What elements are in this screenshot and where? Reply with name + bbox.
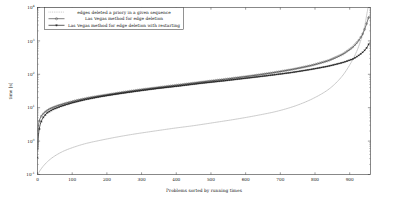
series-marker bbox=[95, 96, 97, 98]
series-marker bbox=[185, 84, 187, 86]
y-axis-title: time [s] bbox=[8, 82, 13, 99]
series-marker bbox=[64, 104, 66, 106]
series-marker bbox=[152, 88, 154, 90]
x-axis-title: Problems sorted by running times bbox=[166, 188, 243, 193]
series-marker bbox=[225, 80, 227, 82]
series-marker bbox=[311, 68, 313, 70]
series-marker bbox=[258, 76, 260, 78]
series-marker bbox=[299, 70, 301, 72]
series-marker bbox=[42, 116, 44, 118]
series-marker bbox=[105, 95, 107, 97]
series-marker bbox=[93, 97, 95, 99]
series-marker bbox=[321, 66, 323, 68]
series-marker bbox=[183, 84, 185, 86]
y-tick-exponent: 0 bbox=[33, 138, 35, 142]
series-marker bbox=[127, 91, 129, 93]
x-tick-label: 700 bbox=[276, 177, 284, 182]
series-marker bbox=[234, 78, 236, 80]
series-marker bbox=[227, 79, 229, 81]
series-marker bbox=[131, 91, 133, 93]
series-marker bbox=[170, 86, 172, 88]
legend-label-3: Las Vegas method for edge deletion with … bbox=[68, 23, 180, 28]
series-marker bbox=[230, 79, 232, 81]
legend-label-1: edges deleted a priory in a given sequen… bbox=[77, 10, 171, 15]
series-marker bbox=[193, 83, 195, 85]
series-marker bbox=[150, 88, 152, 90]
series-marker bbox=[56, 107, 58, 109]
y-tick-exponent: 4 bbox=[33, 4, 35, 8]
series-marker bbox=[289, 72, 291, 74]
series-marker bbox=[54, 108, 56, 110]
series-marker bbox=[315, 68, 317, 70]
series-marker bbox=[146, 89, 148, 91]
series-marker bbox=[285, 72, 287, 74]
y-tick-exponent: 2 bbox=[33, 71, 35, 75]
series-marker bbox=[356, 56, 358, 58]
series-marker bbox=[305, 69, 307, 71]
y-tick-label: 103 bbox=[27, 38, 34, 44]
series-marker bbox=[101, 95, 103, 97]
series-marker bbox=[279, 73, 281, 75]
series-line bbox=[38, 43, 369, 150]
series-marker bbox=[52, 108, 54, 110]
legend-label-2: Las Vegas method for edge deletion bbox=[85, 16, 163, 21]
series-marker bbox=[254, 76, 256, 78]
series-marker bbox=[268, 75, 270, 77]
series-marker bbox=[138, 90, 140, 92]
series-marker bbox=[272, 74, 274, 76]
series-marker bbox=[89, 98, 91, 100]
series-line bbox=[38, 16, 369, 131]
series-marker bbox=[37, 157, 39, 159]
series-marker bbox=[115, 93, 117, 95]
series-marker bbox=[156, 88, 158, 90]
series-marker bbox=[207, 82, 209, 84]
series-marker bbox=[62, 105, 64, 107]
series-marker bbox=[46, 112, 48, 114]
series-marker bbox=[260, 75, 262, 77]
series-marker bbox=[85, 98, 87, 100]
series-marker bbox=[166, 86, 168, 88]
y-tick-exponent: -1 bbox=[32, 171, 35, 175]
series-marker bbox=[84, 99, 86, 101]
series-marker bbox=[248, 77, 250, 79]
x-tick-label: 900 bbox=[346, 177, 354, 182]
series-marker bbox=[228, 79, 230, 81]
plot-frame bbox=[38, 8, 371, 175]
series-marker bbox=[238, 78, 240, 80]
legend: edges deleted a priory in a given sequen… bbox=[45, 8, 184, 30]
series-marker bbox=[129, 91, 131, 93]
series-marker bbox=[113, 93, 115, 95]
series-marker bbox=[213, 81, 215, 83]
series-marker bbox=[82, 99, 84, 101]
series-marker bbox=[256, 76, 258, 78]
series-marker bbox=[160, 87, 162, 89]
series-marker bbox=[287, 72, 289, 74]
series-marker bbox=[148, 89, 150, 91]
series-marker bbox=[215, 81, 217, 83]
series-marker bbox=[236, 78, 238, 80]
x-tick-label: 800 bbox=[311, 177, 319, 182]
series-marker bbox=[172, 86, 174, 88]
x-tick-label: 300 bbox=[138, 177, 146, 182]
series-marker bbox=[191, 83, 193, 85]
figure-container: 010020030040050060070080090010-110010110… bbox=[0, 0, 395, 198]
series-marker bbox=[350, 59, 352, 61]
series-marker bbox=[336, 63, 338, 65]
series-marker bbox=[252, 76, 254, 78]
series-marker bbox=[50, 110, 52, 112]
series-marker bbox=[121, 92, 123, 94]
series-marker bbox=[242, 78, 244, 80]
series-marker bbox=[80, 100, 82, 102]
series-marker bbox=[221, 80, 223, 82]
series-marker bbox=[195, 83, 197, 85]
series-marker bbox=[313, 68, 315, 70]
series-marker bbox=[87, 98, 89, 100]
series-marker bbox=[58, 106, 60, 108]
series-marker bbox=[103, 95, 105, 97]
y-tick-label: 102 bbox=[27, 71, 34, 77]
series-marker bbox=[109, 94, 111, 96]
series-marker bbox=[344, 61, 346, 63]
series-marker bbox=[134, 90, 136, 92]
series-marker bbox=[205, 82, 207, 84]
series-marker bbox=[319, 67, 321, 69]
